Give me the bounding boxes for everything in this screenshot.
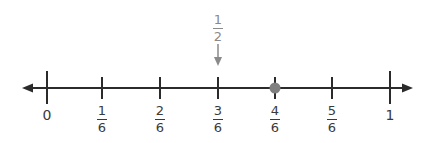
tick-label-0: 0 (43, 108, 52, 122)
numerator: 2 (156, 104, 164, 118)
marker-denominator: 2 (214, 30, 222, 44)
left-arrow-icon (22, 84, 33, 93)
denominator: 6 (98, 121, 106, 135)
denominator: 6 (214, 121, 222, 135)
numerator: 5 (328, 104, 336, 118)
marker-numerator: 1 (214, 13, 222, 27)
numerator: 1 (98, 104, 106, 118)
denominator: 6 (328, 121, 336, 135)
tick-label-3-6: 3 6 (213, 103, 223, 135)
numerator: 4 (271, 104, 279, 118)
denominator: 6 (156, 121, 164, 135)
tick-label-1: 1 (386, 108, 395, 122)
down-arrow-icon (214, 57, 222, 66)
denominator: 6 (271, 121, 279, 135)
tick-label-2-6: 2 6 (155, 103, 165, 135)
tick-label-5-6: 5 6 (327, 103, 337, 135)
plotted-point (270, 83, 281, 94)
marker-label-one-half: 1 2 (213, 12, 223, 44)
tick-label-4-6: 4 6 (270, 103, 280, 135)
tick-label-1-6: 1 6 (97, 103, 107, 135)
numerator: 3 (214, 104, 222, 118)
right-arrow-icon (402, 84, 413, 93)
